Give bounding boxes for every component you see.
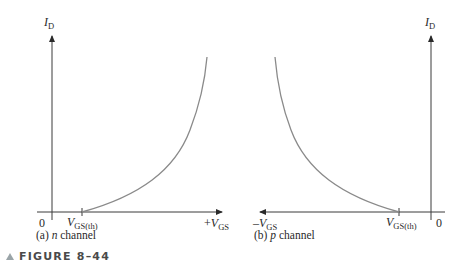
n-origin-label: 0 [39, 217, 45, 229]
n-transfer-curve [82, 57, 207, 212]
n-vgs-axis-label: +VGS [204, 217, 229, 232]
panel-n-channel [37, 36, 222, 220]
p-threshold-label: VGS(th) [386, 216, 416, 231]
figure-label: FIGURE 8–44 [6, 250, 110, 263]
n-id-axis-label: ID [44, 16, 54, 31]
p-origin-label: 0 [436, 217, 442, 229]
panel-p-channel [260, 36, 445, 220]
p-transfer-curve [275, 57, 399, 212]
n-channel-caption: (a) n channel [36, 229, 96, 241]
p-channel-caption: (b) p channel [254, 229, 315, 241]
triangle-marker-icon [6, 253, 14, 260]
p-id-axis-label: ID [425, 16, 435, 31]
